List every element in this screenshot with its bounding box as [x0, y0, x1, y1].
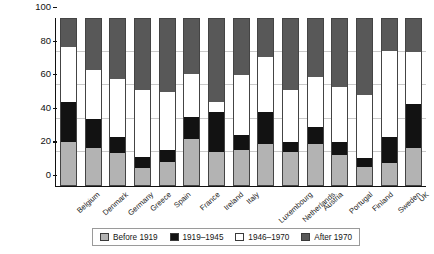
bar-segment[interactable] — [406, 19, 421, 52]
bar-segment[interactable] — [184, 19, 199, 74]
bar-segment[interactable] — [258, 112, 273, 144]
y-tick-label: 40 — [17, 102, 56, 113]
stacked-bar[interactable] — [307, 18, 324, 186]
bar-segment[interactable] — [160, 92, 175, 150]
bar-segment[interactable] — [135, 90, 150, 156]
bar-segment[interactable] — [61, 102, 76, 142]
bar-segment[interactable] — [184, 139, 199, 185]
bar-slot[interactable] — [377, 18, 402, 186]
bar-segment[interactable] — [110, 137, 125, 154]
bar-segment[interactable] — [357, 167, 372, 185]
bar-segment[interactable] — [110, 79, 125, 137]
bar-slot[interactable] — [303, 18, 328, 186]
bar-segment[interactable] — [135, 157, 150, 169]
bar-segment[interactable] — [332, 19, 347, 87]
bar-segment[interactable] — [86, 70, 101, 118]
bar-segment[interactable] — [234, 19, 249, 75]
y-tick-label: 100 — [17, 1, 56, 12]
bar-segment[interactable] — [357, 158, 372, 166]
bar-segment[interactable] — [135, 19, 150, 90]
bar-segment[interactable] — [283, 90, 298, 141]
bar-segment[interactable] — [382, 163, 397, 185]
bar-segment[interactable] — [234, 150, 249, 185]
stacked-bar[interactable] — [134, 18, 151, 186]
bar-segment[interactable] — [234, 135, 249, 150]
stacked-bar[interactable] — [356, 18, 373, 186]
bar-segment[interactable] — [406, 52, 421, 103]
bar-slot[interactable] — [81, 18, 106, 186]
stacked-bar[interactable] — [159, 18, 176, 186]
bar-segment[interactable] — [382, 137, 397, 164]
bar-segment[interactable] — [332, 155, 347, 185]
stacked-bar[interactable] — [282, 18, 299, 186]
bar-slot[interactable] — [401, 18, 426, 186]
bar-slot[interactable] — [278, 18, 303, 186]
bar-segment[interactable] — [86, 148, 101, 185]
legend-item[interactable]: 1919–1945 — [170, 233, 224, 242]
bar-segment[interactable] — [308, 127, 323, 144]
bar-segment[interactable] — [406, 148, 421, 185]
bar-segment[interactable] — [283, 142, 298, 152]
bar-slot[interactable] — [179, 18, 204, 186]
x-tick-label: Ireland — [222, 190, 245, 212]
bar-segment[interactable] — [110, 19, 125, 79]
bar-segment[interactable] — [184, 117, 199, 139]
stacked-bar[interactable] — [233, 18, 250, 186]
bar-slot[interactable] — [56, 18, 81, 186]
stacked-bar[interactable] — [331, 18, 348, 186]
stacked-bar[interactable] — [109, 18, 126, 186]
bar-segment[interactable] — [209, 112, 224, 152]
legend-item[interactable]: 1946–1970 — [235, 233, 289, 242]
bar-segment[interactable] — [209, 19, 224, 102]
bar-slot[interactable] — [253, 18, 278, 186]
stacked-bar[interactable] — [183, 18, 200, 186]
bar-segment[interactable] — [135, 168, 150, 185]
bar-segment[interactable] — [234, 75, 249, 135]
bar-segment[interactable] — [184, 74, 199, 117]
bar-segment[interactable] — [308, 77, 323, 127]
legend-swatch-icon — [100, 233, 109, 241]
stacked-bar[interactable] — [257, 18, 274, 186]
bar-segment[interactable] — [382, 19, 397, 51]
bar-segment[interactable] — [160, 150, 175, 162]
bar-slot[interactable] — [352, 18, 377, 186]
bar-slot[interactable] — [130, 18, 155, 186]
bar-segment[interactable] — [61, 142, 76, 185]
stacked-bar[interactable] — [381, 18, 398, 186]
bar-segment[interactable] — [406, 104, 421, 149]
bar-segment[interactable] — [258, 144, 273, 186]
bar-slot[interactable] — [327, 18, 352, 186]
bar-segment[interactable] — [258, 19, 273, 57]
bar-segment[interactable] — [382, 51, 397, 137]
stacked-bar[interactable] — [85, 18, 102, 186]
bar-segment[interactable] — [332, 87, 347, 142]
bar-segment[interactable] — [86, 119, 101, 149]
x-tick-label: Finland — [371, 190, 396, 213]
bar-segment[interactable] — [283, 152, 298, 185]
bar-segment[interactable] — [209, 152, 224, 185]
stacked-bar[interactable] — [208, 18, 225, 186]
bar-segment[interactable] — [332, 142, 347, 155]
legend-swatch-icon — [170, 233, 179, 241]
bar-slot[interactable] — [155, 18, 180, 186]
bar-segment[interactable] — [357, 19, 372, 95]
stacked-bar[interactable] — [60, 18, 77, 186]
bar-segment[interactable] — [283, 19, 298, 90]
bar-segment[interactable] — [61, 47, 76, 102]
bar-segment[interactable] — [357, 95, 372, 158]
bar-segment[interactable] — [258, 57, 273, 112]
legend-item[interactable]: Before 1919 — [100, 233, 158, 242]
bar-segment[interactable] — [61, 19, 76, 47]
bar-segment[interactable] — [308, 144, 323, 186]
bar-segment[interactable] — [160, 19, 175, 92]
bar-slot[interactable] — [204, 18, 229, 186]
bar-segment[interactable] — [110, 153, 125, 185]
bar-segment[interactable] — [209, 102, 224, 112]
bar-slot[interactable] — [229, 18, 254, 186]
bar-segment[interactable] — [160, 162, 175, 185]
bar-segment[interactable] — [308, 19, 323, 77]
legend-item[interactable]: After 1970 — [301, 233, 352, 242]
bar-segment[interactable] — [86, 19, 101, 70]
bar-slot[interactable] — [105, 18, 130, 186]
stacked-bar[interactable] — [405, 18, 422, 186]
